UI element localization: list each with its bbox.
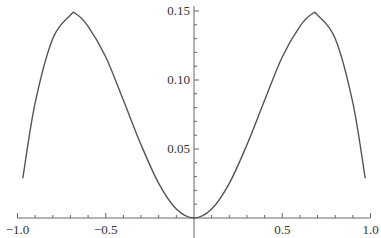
x-tick-label: 0.5 [274,222,290,237]
y-tick-label: 0.15 [167,3,190,18]
y-tick-label: 0.05 [167,141,190,156]
y-tick-labels: 0.050.100.15 [167,3,190,156]
x-tick-label: −0.5 [94,222,118,237]
line-chart: −1.0−0.50.51.0 0.050.100.15 [0,0,381,238]
y-tick-label: 0.10 [167,72,190,87]
x-tick-label: −1.0 [6,222,30,237]
x-tick-labels: −1.0−0.50.51.0 [6,222,379,237]
y-minor-ticks [194,11,199,204]
x-tick-label: 1.0 [362,222,378,237]
axes: −1.0−0.50.51.0 0.050.100.15 [6,3,379,238]
